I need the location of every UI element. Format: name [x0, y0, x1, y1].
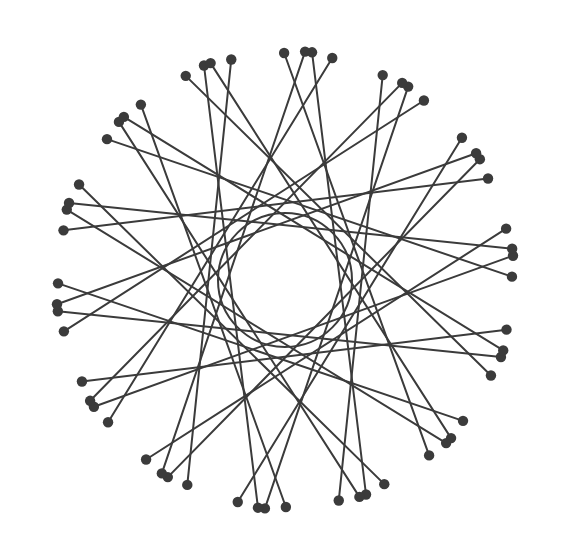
chord-line	[238, 138, 462, 502]
chord-line	[58, 283, 463, 421]
vertex-dot	[182, 480, 192, 490]
vertex-dot	[103, 417, 113, 427]
vertex-dot	[226, 54, 236, 64]
vertex-dot	[507, 271, 517, 281]
inner-circle-envelope	[218, 213, 352, 347]
chord-line	[141, 105, 286, 507]
vertex-dot	[279, 48, 289, 58]
vertex-dot	[58, 225, 68, 235]
vertex-dot	[378, 70, 388, 80]
chord-line	[107, 139, 512, 277]
vertex-dot	[354, 492, 364, 502]
star-polygon-figure	[0, 0, 564, 560]
vertex-dot	[419, 95, 429, 105]
vertex-dot	[507, 244, 517, 254]
chord-line	[108, 58, 332, 422]
vertex-dot	[74, 179, 84, 189]
vertex-dot	[471, 148, 481, 158]
vertex-dot	[446, 433, 456, 443]
vertex-dot	[397, 78, 407, 88]
vertex-dot	[141, 454, 151, 464]
chord-line	[312, 52, 366, 494]
vertex-dot	[157, 468, 167, 478]
vertex-dot	[85, 396, 95, 406]
vertex-dot	[498, 345, 508, 355]
chord-line	[57, 153, 476, 304]
vertex-dot	[501, 324, 511, 334]
vertex-dot	[379, 479, 389, 489]
vertex-dot	[136, 99, 146, 109]
chord-line	[211, 63, 451, 438]
vertex-dot	[300, 46, 310, 56]
vertex-dot	[424, 450, 434, 460]
vertex-dot	[102, 134, 112, 144]
vertex-dot	[486, 370, 496, 380]
vertex-dot	[253, 502, 263, 512]
chord-line	[94, 256, 513, 407]
chord-line	[69, 203, 512, 249]
vertex-dot	[233, 497, 243, 507]
chord-line	[284, 53, 429, 455]
vertex-dot	[483, 173, 493, 183]
chord-line	[64, 100, 424, 331]
vertex-dot	[64, 198, 74, 208]
vertex-dot	[181, 71, 191, 81]
vertex-dot	[327, 53, 337, 63]
vertex-dot	[52, 299, 62, 309]
vertex-dot	[458, 416, 468, 426]
chord-line	[146, 229, 506, 460]
vertex-dot	[281, 502, 291, 512]
vertex-dot	[501, 223, 511, 233]
chord-line	[204, 66, 258, 508]
vertex-dot	[205, 58, 215, 68]
chord-line	[119, 122, 359, 497]
vertex-dot	[59, 326, 69, 336]
figure-canvas	[0, 0, 564, 560]
chord-line	[339, 75, 383, 500]
chord-line	[58, 311, 501, 357]
vertex-dot	[77, 376, 87, 386]
chord-line	[67, 210, 446, 444]
chord-line	[82, 330, 507, 382]
chord-line	[187, 59, 231, 484]
chord-line	[124, 117, 503, 351]
chord-line	[79, 185, 384, 485]
chord-line	[64, 179, 489, 231]
chord-line	[186, 76, 491, 376]
vertex-dot	[119, 112, 129, 122]
inner-void-circle	[218, 213, 352, 347]
vertex-dot	[334, 495, 344, 505]
vertex-dot	[53, 278, 63, 288]
vertex-dot	[457, 133, 467, 143]
